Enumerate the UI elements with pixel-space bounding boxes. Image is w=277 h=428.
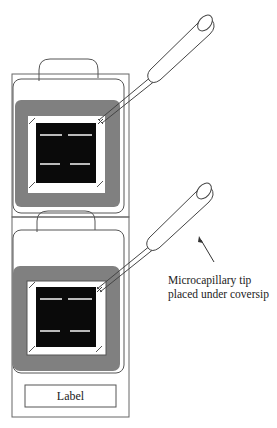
lower-tab (37, 211, 95, 232)
lower-array (36, 287, 96, 347)
diagram-canvas (0, 0, 277, 428)
upper-array (36, 123, 96, 183)
slide-label-text: Label (25, 385, 116, 407)
upper-tab (39, 59, 98, 81)
pointer-arrow (201, 240, 214, 262)
caption-line-2: placed under coversip (168, 287, 269, 301)
caption: Microcapillary tip placed under coversip (168, 273, 269, 301)
caption-line-1: Microcapillary tip (168, 273, 269, 287)
